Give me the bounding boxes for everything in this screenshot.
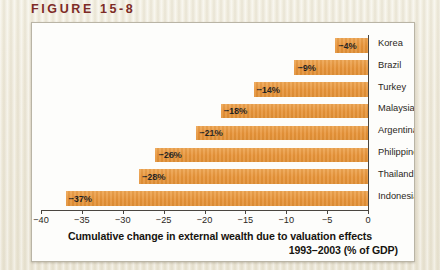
bars-container: −4%Korea−9%Brazil−14%Turkey−18%Malaysia−… [41, 35, 368, 210]
category-label-turkey: Turkey [378, 82, 406, 92]
bar-row: −26%Philippines [41, 144, 368, 166]
x-tick-label: −30 [115, 215, 131, 225]
bar-philippines: −26% [155, 148, 368, 163]
bar-indonesia: −37% [66, 191, 368, 206]
bar-value-label: −4% [338, 41, 356, 51]
x-tick [164, 210, 165, 214]
x-tick-label: −40 [33, 215, 49, 225]
x-axis-label-line2: 1993–2003 (% of GDP) [42, 243, 398, 257]
bar-thailand: −28% [139, 169, 368, 184]
bar-value-label: −37% [69, 194, 92, 204]
chart-plot-region: −4%Korea−9%Brazil−14%Turkey−18%Malaysia−… [32, 23, 414, 261]
x-tick-label: −10 [278, 215, 294, 225]
bar-row: −18%Malaysia [41, 101, 368, 123]
x-tick [327, 210, 328, 214]
category-label-argentina: Argentina [378, 125, 414, 135]
bar-value-label: −28% [142, 172, 165, 182]
x-axis-label-line1: Cumulative change in external wealth due… [42, 229, 398, 243]
bar-value-label: −18% [224, 106, 247, 116]
x-tick [205, 210, 206, 214]
category-label-korea: Korea [378, 38, 403, 48]
chart-panel: −4%Korea−9%Brazil−14%Turkey−18%Malaysia−… [31, 22, 415, 262]
bar-value-label: −9% [297, 63, 315, 73]
figure-label: FIGURE 15-8 [31, 2, 135, 16]
bar-value-label: −21% [199, 128, 222, 138]
x-tick-label: −25 [156, 215, 172, 225]
category-label-philippines: Philippines [378, 147, 414, 157]
bar-argentina: −21% [196, 126, 368, 141]
bar-row: −14%Turkey [41, 79, 368, 101]
category-label-malaysia: Malaysia [378, 103, 414, 113]
bar-turkey: −14% [254, 82, 368, 97]
bar-malaysia: −18% [221, 104, 368, 119]
x-tick-label: −15 [238, 215, 254, 225]
x-tick-label: −35 [74, 215, 90, 225]
x-tick [245, 210, 246, 214]
x-tick [368, 210, 369, 214]
bar-value-label: −26% [158, 150, 181, 160]
x-tick [82, 210, 83, 214]
x-tick-label: −5 [322, 215, 332, 225]
x-tick-label: 0 [365, 215, 370, 225]
zero-axis-line [368, 35, 369, 211]
bar-row: −4%Korea [41, 35, 368, 57]
category-label-brazil: Brazil [378, 60, 401, 70]
bar-row: −37%Indonesia [41, 188, 368, 210]
bar-row: −9%Brazil [41, 57, 368, 79]
x-tick [286, 210, 287, 214]
bar-brazil: −9% [294, 60, 368, 75]
bar-value-label: −14% [257, 85, 280, 95]
bar-korea: −4% [335, 38, 368, 53]
bar-row: −28%Thailand [41, 166, 368, 188]
x-axis-label: Cumulative change in external wealth due… [42, 229, 398, 257]
category-label-thailand: Thailand [378, 169, 414, 179]
category-label-indonesia: Indonesia [378, 191, 414, 201]
bar-row: −21%Argentina [41, 123, 368, 145]
x-tick [41, 210, 42, 214]
x-tick [123, 210, 124, 214]
x-tick-label: −20 [197, 215, 213, 225]
